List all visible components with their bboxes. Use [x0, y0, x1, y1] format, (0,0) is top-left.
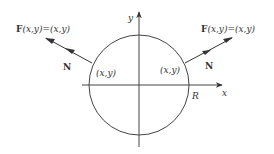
y-axis-label: y [127, 13, 134, 23]
right-field-label: F(x,y)=(x,y) [201, 24, 256, 34]
x-axis-label: x [222, 88, 227, 98]
radius-label: R [191, 91, 199, 101]
left-normal-label: N [63, 62, 71, 72]
left-normal-arrowhead-tip [45, 38, 55, 44]
right-normal-label: N [205, 61, 213, 71]
left-point-label: (x,y) [96, 68, 117, 78]
right-normal-arrowhead-mid [202, 50, 211, 55]
vector-field-diagram: x y R N (x,y) F(x,y)=(x,y) N (x,y) F(x,y… [0, 0, 274, 154]
left-field-label: F(x,y)=(x,y) [16, 24, 71, 34]
right-point-label: (x,y) [160, 65, 181, 75]
